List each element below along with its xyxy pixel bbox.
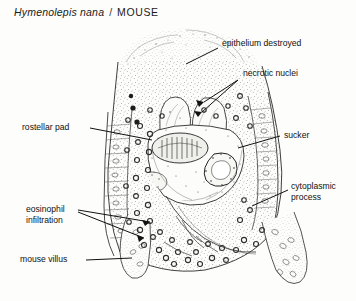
label-cytoplasmic-process: cytoplasmic process — [291, 181, 336, 202]
figure-title: Hymenolepis nana/MOUSE — [14, 6, 159, 18]
sucker-lumen — [212, 161, 231, 180]
label-eosinophil-infiltration: eosinophil infiltration — [26, 204, 65, 225]
title-host: MOUSE — [117, 6, 159, 18]
rostellar-pad-structure — [152, 133, 208, 163]
label-eosinophil-infiltration-line1: eosinophil — [26, 204, 65, 215]
rostellar-pad-outline — [152, 133, 208, 163]
label-cytoplasmic-process-line2: process — [291, 192, 336, 203]
label-necrotic-nuclei: necrotic nuclei — [243, 68, 298, 79]
title-species: Hymenolepis nana — [14, 6, 104, 18]
label-sucker: sucker — [284, 130, 309, 141]
label-rostellar-pad: rostellar pad — [22, 122, 69, 133]
label-mouse-villus: mouse villus — [20, 254, 67, 265]
label-eosinophil-infiltration-line2: infiltration — [26, 215, 65, 226]
label-cytoplasmic-process-line1: cytoplasmic — [291, 181, 336, 192]
title-separator: / — [104, 6, 117, 18]
label-epithelium-destroyed: epithelium destroyed — [222, 38, 301, 49]
